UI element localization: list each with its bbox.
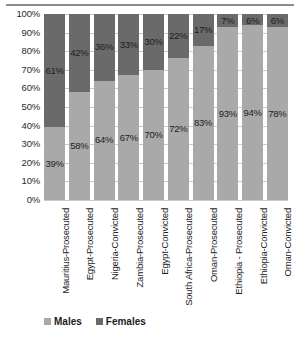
bar-value-label-females: 17% — [194, 24, 212, 35]
bar-column[interactable]: 33%67% — [118, 14, 139, 200]
bar-column[interactable]: 30%70% — [143, 14, 164, 200]
y-axis: 100%90%80%70%60%50%40%30%20%10%0% — [0, 14, 40, 200]
bar-segment-males[interactable]: 93% — [217, 27, 238, 200]
legend-swatch-females-icon — [96, 318, 103, 325]
bar-value-label-males: 94% — [244, 107, 262, 118]
bar-column[interactable]: 36%64% — [94, 14, 115, 200]
bar-segment-females[interactable]: 17% — [193, 14, 214, 46]
bar-segment-females[interactable]: 22% — [168, 14, 189, 58]
x-axis-category: Mauritius-Prosecuted — [44, 208, 65, 308]
legend-item-males: Males — [44, 316, 82, 327]
bar-segment-females[interactable]: 7% — [217, 14, 238, 27]
bar-segment-females[interactable]: 30% — [143, 14, 164, 70]
x-axis-category: Egypt-Convicted — [143, 208, 164, 308]
bar-segment-males[interactable]: 72% — [168, 58, 189, 200]
legend-label-males: Males — [54, 316, 82, 327]
y-axis-tick-label: 0% — [0, 195, 40, 205]
bar-column[interactable]: 17%83% — [193, 14, 214, 200]
bar-column[interactable]: 7%93% — [217, 14, 238, 200]
bar-value-label-males: 78% — [268, 108, 286, 119]
y-axis-tick-label: 50% — [0, 102, 40, 112]
bar-column[interactable]: 22%72% — [168, 14, 189, 200]
bar-value-label-males: 93% — [219, 108, 237, 119]
bar-value-label-females: 22% — [169, 30, 187, 41]
x-axis-category: Nigeria-Convicted — [94, 208, 115, 308]
x-axis-category: Egypt-Prosecuted — [69, 208, 90, 308]
bar-column[interactable]: 6%94% — [242, 14, 263, 200]
legend-swatch-males-icon — [44, 318, 51, 325]
bar-segment-males[interactable]: 39% — [44, 127, 65, 200]
bar-segment-females[interactable]: 6% — [242, 14, 263, 25]
bar-value-label-males: 83% — [194, 117, 212, 128]
x-axis-category: Ethiopia - Prosecuted — [217, 208, 238, 308]
y-axis-tick-label: 100% — [0, 9, 40, 19]
bar-segment-males[interactable]: 67% — [118, 75, 139, 200]
x-axis-category-label: Oman-Convicted — [283, 208, 293, 276]
y-axis-tick-label: 40% — [0, 121, 40, 131]
bar-column[interactable]: 6%78% — [267, 14, 288, 200]
bar-group: 61%39%42%58%36%64%33%67%30%70%22%72%17%8… — [44, 14, 288, 200]
x-axis-category: Zambia-Prosecuted — [118, 208, 139, 308]
bar-segment-females[interactable]: 61% — [44, 14, 65, 127]
bar-value-label-males: 64% — [95, 134, 113, 145]
bar-column[interactable]: 61%39% — [44, 14, 65, 200]
bar-segment-females[interactable]: 42% — [69, 14, 90, 92]
bar-segment-males[interactable]: 64% — [94, 81, 115, 200]
y-axis-tick-label: 60% — [0, 83, 40, 93]
bar-value-label-males: 72% — [169, 123, 187, 134]
bar-value-label-females: 7% — [221, 15, 234, 26]
bar-value-label-females: 42% — [70, 47, 88, 58]
bar-segment-females[interactable]: 6% — [267, 14, 288, 27]
stacked-bar-chart: 100%90%80%70%60%50%40%30%20%10%0% 61%39%… — [0, 14, 300, 206]
legend-item-females: Females — [96, 316, 146, 327]
bar-segment-males[interactable]: 94% — [242, 25, 263, 200]
bar-value-label-males: 67% — [120, 132, 138, 143]
bar-segment-males[interactable]: 58% — [69, 92, 90, 200]
plot-area: 61%39%42%58%36%64%33%67%30%70%22%72%17%8… — [44, 14, 288, 200]
x-axis: Mauritius-ProsecutedEgypt-ProsecutedNige… — [44, 208, 288, 308]
y-axis-tick-label: 80% — [0, 46, 40, 56]
bar-segment-males[interactable]: 83% — [193, 46, 214, 200]
chart-legend: Males Females — [44, 316, 288, 327]
bar-segment-females[interactable]: 33% — [118, 14, 139, 75]
bar-value-label-females: 6% — [271, 15, 284, 26]
bar-value-label-females: 30% — [145, 36, 163, 47]
bar-value-label-females: 36% — [95, 41, 113, 52]
legend-label-females: Females — [106, 316, 146, 327]
bar-segment-females[interactable]: 36% — [94, 14, 115, 81]
bar-column[interactable]: 42%58% — [69, 14, 90, 200]
y-axis-tick-label: 20% — [0, 158, 40, 168]
y-axis-tick-label: 70% — [0, 65, 40, 75]
x-axis-category: Oman-Prosecuted — [193, 208, 214, 308]
y-axis-tick-label: 30% — [0, 139, 40, 149]
bar-value-label-males: 58% — [70, 140, 88, 151]
x-axis-category: Ethiopia-Convicted — [242, 208, 263, 308]
x-axis-category: Oman-Convicted — [267, 208, 288, 308]
bar-value-label-females: 61% — [45, 65, 63, 76]
bar-value-label-females: 33% — [120, 39, 138, 50]
top-divider — [6, 4, 294, 6]
x-axis-category: South Africa-Prosecuted — [168, 208, 189, 308]
bar-segment-males[interactable]: 70% — [143, 70, 164, 200]
bar-segment-males[interactable]: 78% — [267, 27, 288, 200]
bar-value-label-males: 70% — [145, 129, 163, 140]
y-axis-tick-label: 10% — [0, 176, 40, 186]
gridline — [44, 200, 288, 201]
y-axis-tick-label: 90% — [0, 28, 40, 38]
bar-value-label-males: 39% — [45, 158, 63, 169]
